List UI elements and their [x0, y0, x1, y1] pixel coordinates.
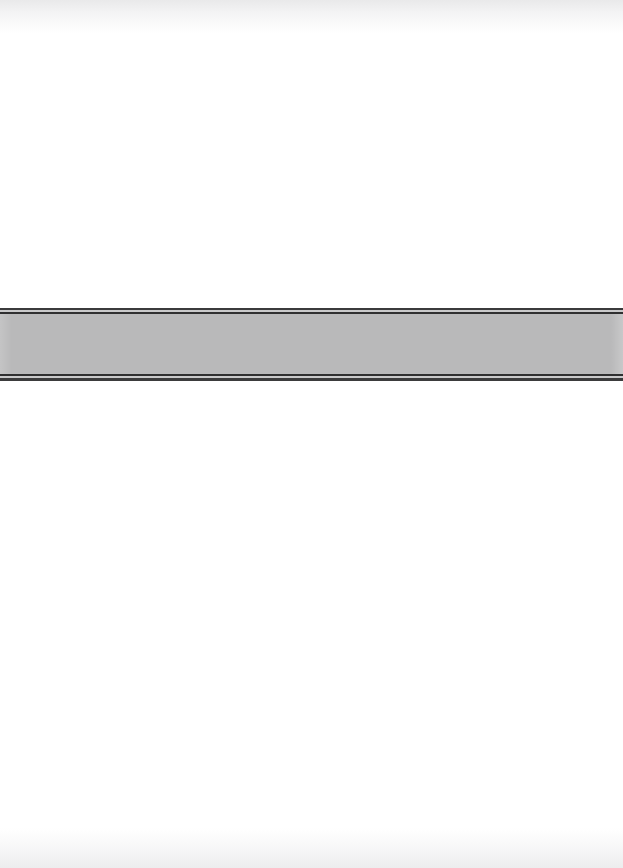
- band-fill: [0, 314, 623, 374]
- scanned-page: [0, 0, 623, 868]
- horizontal-gray-band: [0, 308, 623, 381]
- blank-paper-region-below-band: [0, 381, 623, 868]
- blank-paper-region-above-band: [0, 0, 623, 308]
